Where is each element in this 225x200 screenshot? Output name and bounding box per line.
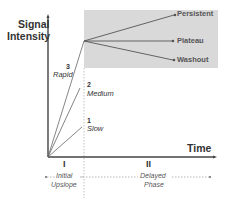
curve-washout-label: Washout [177,55,208,64]
curve-2-number: 2 [87,81,91,88]
phase-ii-right-arrow-icon [209,176,211,178]
washout-arrow-icon [173,59,176,62]
phase-i-label-line1: Initial [56,172,72,179]
phase-i-label-line2: Upslope [51,181,77,188]
x-axis-label: Time [187,142,211,154]
curve-rapid-label: Rapid [53,70,73,79]
curve-medium-label: Medium [87,89,114,98]
curve-medium [48,88,80,157]
curve-rapid [48,41,84,157]
phase-i-left-arrow-icon [45,176,47,178]
phase-ii-numeral: II [146,159,151,169]
phase-ii-label-line2: Phase [144,181,164,188]
y-axis-label-line2: Intensity [7,30,50,42]
curve-plateau-label: Plateau [177,36,204,45]
phase-ii-label-line1: Delayed [140,172,166,179]
curve-1-number: 1 [87,117,91,124]
phase-i-numeral: I [63,159,66,169]
y-axis-label-line1: Signal [18,18,50,30]
curve-3-number: 3 [66,63,70,70]
curve-slow-label: Slow [87,124,103,133]
curve-slow [48,127,82,157]
plateau-arrow-icon [172,40,175,43]
persistent-arrow-icon [174,14,177,17]
x-axis-arrow-icon [213,156,217,159]
curve-persistent-label: Persistent [177,9,213,18]
